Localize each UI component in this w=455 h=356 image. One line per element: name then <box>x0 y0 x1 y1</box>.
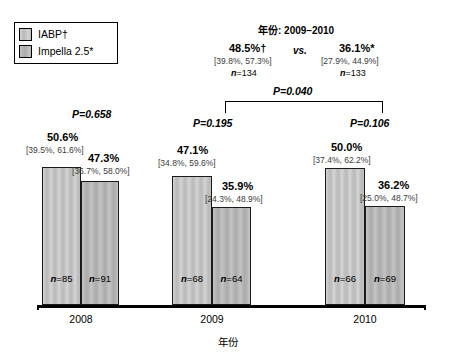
group-pvalue-2008: P=0.658 <box>72 108 111 120</box>
bar-n-value-iabp-2010: 66 <box>345 273 356 284</box>
pooled-pvalue: P=0.040 <box>273 85 312 97</box>
x-tick-label-2009: 2009 <box>171 313 253 325</box>
bar-n-impella-2010: n=69 <box>366 273 404 284</box>
pooled-left-n-value: 134 <box>242 68 257 78</box>
bar-impella-2009: n=64 <box>212 207 251 305</box>
value-label-impella-2009: 35.9% <box>222 180 253 192</box>
bar-n-impella-2008: n=91 <box>82 273 118 284</box>
legend-item-iabp: IABP† <box>19 26 113 43</box>
value-label-iabp-2010: 50.0% <box>331 141 362 153</box>
pooled-vs-label: vs. <box>293 45 307 56</box>
comparison-bracket <box>225 101 383 113</box>
bar-n-iabp-2008: n=85 <box>43 273 80 284</box>
pooled-left-value: 48.5%† <box>229 42 266 54</box>
value-label-iabp-2009: 47.1% <box>177 144 208 156</box>
bar-n-value-iabp-2009: 68 <box>192 273 203 284</box>
value-label-iabp-2008: 50.6% <box>47 131 78 143</box>
ci-label-iabp-2008: [39.5%, 61.6%] <box>26 145 84 155</box>
bar-n-value-impella-2009: 64 <box>232 273 243 284</box>
legend-label-impella: Impella 2.5* <box>38 46 93 57</box>
value-label-impella-2010: 36.2% <box>378 179 409 191</box>
group-pvalue-2010: P=0.106 <box>350 117 389 129</box>
group-pvalue-2009: P=0.195 <box>193 117 232 129</box>
legend-swatch-iabp-icon <box>19 28 32 41</box>
ci-label-impella-2009: [24.3%, 48.9%] <box>205 194 263 204</box>
legend-item-impella: Impella 2.5* <box>19 43 113 60</box>
pooled-right-ci: [27.9%, 44.9%] <box>321 56 379 66</box>
chart-legend: IABP† Impella 2.5* <box>14 22 118 64</box>
ci-label-impella-2010: [25.0%, 48.7%] <box>360 193 418 203</box>
x-tick-label-2010: 2010 <box>324 313 406 325</box>
x-axis-tick-start <box>37 305 39 310</box>
x-axis-title: 年份 <box>0 334 455 349</box>
bar-iabp-2010: n=66 <box>325 168 365 305</box>
bar-n-value-iabp-2008: 85 <box>62 273 73 284</box>
pooled-left-n: n=134 <box>231 68 257 78</box>
bar-n-value-impella-2008: 91 <box>100 273 111 284</box>
pooled-left-ci: [39.8%, 57.3%] <box>214 56 272 66</box>
ci-label-impella-2008: [36.7%, 58.0%] <box>72 166 130 176</box>
bar-n-iabp-2010: n=66 <box>326 273 364 284</box>
pooled-annotation-title: 年份: 2009–2010 <box>258 22 334 37</box>
pooled-right-n-value: 133 <box>351 68 366 78</box>
bar-iabp-2008: n=85 <box>42 167 81 305</box>
legend-label-iabp: IABP† <box>38 29 68 40</box>
pooled-right-n: n=133 <box>340 68 366 78</box>
pooled-right-value: 36.1%* <box>339 42 374 54</box>
bar-n-impella-2009: n=64 <box>213 273 250 284</box>
bar-n-value-impella-2010: 69 <box>385 273 396 284</box>
x-axis-line <box>37 305 426 308</box>
ci-label-iabp-2010: [37.4%, 62.2%] <box>313 155 371 165</box>
x-tick-label-2008: 2008 <box>40 313 122 325</box>
bar-impella-2008: n=91 <box>81 181 119 305</box>
x-axis-tick-end <box>424 305 426 310</box>
bar-n-iabp-2009: n=68 <box>173 273 211 284</box>
value-label-impella-2008: 47.3% <box>88 152 119 164</box>
legend-swatch-impella-icon <box>19 45 32 58</box>
ci-label-iabp-2009: [34.8%, 59.6%] <box>158 158 216 168</box>
chart-figure: IABP† Impella 2.5* 年份: 2009–2010 48.5%† … <box>0 0 455 356</box>
bar-impella-2010: n=69 <box>365 206 405 305</box>
